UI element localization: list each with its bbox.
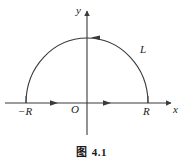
- origin-label: O: [71, 104, 79, 115]
- x-axis-label: x: [173, 104, 178, 115]
- arc-direction-arrow-icon: [91, 35, 100, 40]
- contour-diagram: [0, 0, 183, 145]
- caption-prefix: 图: [76, 146, 88, 159]
- caption-number: 4.1: [92, 146, 107, 158]
- left-endpoint-label: −R: [18, 106, 32, 117]
- figure-caption: 图4.1: [0, 143, 183, 159]
- contour-label: L: [140, 44, 146, 55]
- y-axis-label: y: [76, 5, 81, 16]
- segment-direction-arrow-left-icon: [50, 100, 58, 105]
- right-endpoint-label: R: [143, 106, 150, 117]
- segment-direction-arrow-right-icon: [103, 100, 111, 105]
- figure-container: y x O −R R L 图4.1: [0, 0, 183, 163]
